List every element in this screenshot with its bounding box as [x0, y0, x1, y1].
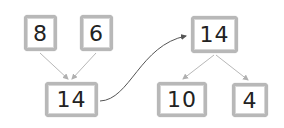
- box-value: 14: [57, 87, 87, 112]
- arrow-14-to-10: [183, 55, 214, 79]
- arrow-6-to-14: [72, 53, 96, 79]
- box-addend-6: 6: [80, 15, 113, 51]
- arrow-14-to-4: [216, 55, 248, 80]
- arrow-8-to-14: [40, 53, 68, 79]
- box-part-4: 4: [232, 83, 268, 117]
- box-value: 14: [200, 22, 230, 47]
- box-addend-8: 8: [24, 15, 57, 51]
- box-value: 4: [243, 88, 258, 113]
- box-value: 10: [167, 87, 197, 112]
- box-value: 8: [33, 21, 48, 46]
- box-sum-14: 14: [45, 82, 98, 117]
- box-whole-14: 14: [191, 16, 238, 53]
- box-part-10: 10: [157, 82, 207, 117]
- box-value: 6: [89, 21, 104, 46]
